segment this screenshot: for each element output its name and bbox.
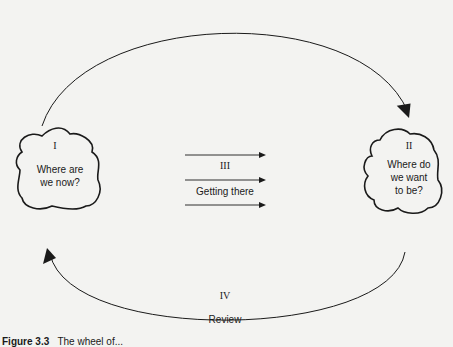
review-label: Review [190, 313, 260, 326]
arrowhead-icon [259, 177, 266, 183]
node1-line1: Where are [25, 163, 95, 176]
top-arc [42, 33, 408, 126]
arrowhead-icon [259, 152, 266, 158]
node1-numeral: I [45, 140, 65, 151]
bottom-arc [50, 252, 405, 320]
arrowhead-top-icon [397, 103, 413, 119]
arrowhead-bottom-icon [43, 248, 56, 264]
node2-line2: we want [374, 171, 444, 184]
transition-numeral: III [205, 160, 245, 171]
caption-label: Figure 3.3 [2, 336, 49, 347]
transition-label: Getting there [180, 185, 270, 198]
caption-text: The wheel of... [57, 336, 123, 347]
node1-line2: we now? [25, 176, 95, 189]
node2-line1: Where do [374, 158, 444, 171]
node2-numeral: II [394, 140, 424, 151]
arrowhead-icon [259, 202, 266, 208]
review-numeral: IV [205, 290, 245, 301]
node1-label: Where are we now? [25, 163, 95, 189]
node2-label: Where do we want to be? [374, 158, 444, 197]
figure-caption: Figure 3.3 The wheel of... [2, 336, 123, 347]
node2-line3: to be? [374, 184, 444, 197]
